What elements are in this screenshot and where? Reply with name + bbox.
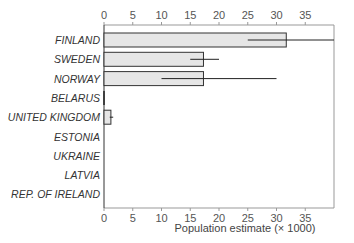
x-tick-label-bottom: 5 <box>130 212 136 224</box>
category-label: UNITED KINGDOM <box>8 111 100 123</box>
category-label: FINLAND <box>55 34 100 46</box>
x-axis-label: Population estimate (× 1000) <box>175 222 316 234</box>
category-label: REP. OF IRELAND <box>11 188 100 200</box>
bars <box>104 33 334 124</box>
population-bar-chart: 0055101015152020252530303535 FINLANDSWED… <box>0 0 354 243</box>
x-tick-label-top: 25 <box>242 9 254 21</box>
category-label: LATVIA <box>65 169 100 181</box>
category-label: UKRAINE <box>53 150 101 162</box>
x-tick-label-bottom: 10 <box>155 212 167 224</box>
x-tick-label-top: 35 <box>299 9 311 21</box>
category-labels: FINLANDSWEDENNORWAYBELARUSUNITED KINGDOM… <box>8 34 101 200</box>
category-label: NORWAY <box>54 73 101 85</box>
x-tick-label-top: 10 <box>155 9 167 21</box>
x-tick-label-top: 30 <box>270 9 282 21</box>
category-label: ESTONIA <box>54 131 100 143</box>
category-label: SWEDEN <box>54 53 101 65</box>
x-tick-label-top: 20 <box>213 9 225 21</box>
x-tick-label-top: 5 <box>130 9 136 21</box>
x-tick-label-top: 0 <box>101 9 107 21</box>
x-tick-label-top: 15 <box>184 9 196 21</box>
bar <box>104 52 203 66</box>
category-label: BELARUS <box>51 92 100 104</box>
x-tick-label-bottom: 0 <box>101 212 107 224</box>
